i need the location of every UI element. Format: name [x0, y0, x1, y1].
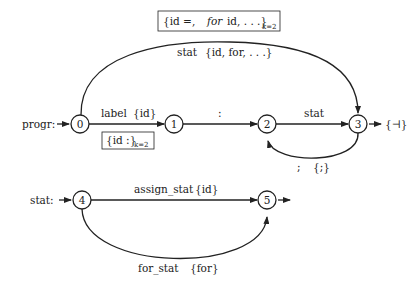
state-2: 2 — [258, 115, 276, 133]
state-4-label: 4 — [79, 194, 86, 206]
state-0: 0 — [71, 115, 89, 133]
edge-1-2-symbol: : — [218, 107, 222, 119]
edge-0-1-k2-sub: k=2 — [134, 141, 149, 149]
edge-4-5-assign-lookahead: {id} — [195, 183, 218, 196]
state-4: 4 — [73, 191, 91, 209]
edge-0-3-k2-sub: k=2 — [262, 23, 277, 31]
edge-0-1-lookahead: {id} — [133, 107, 156, 120]
edge-3-2-symbol: ; — [297, 161, 301, 173]
edge-4-5-for-lookahead: {for} — [190, 262, 219, 275]
state-5: 5 — [258, 191, 276, 209]
stat-machine-label: stat: — [30, 194, 54, 206]
state-3: 3 — [349, 115, 367, 133]
edge-0-1-k2-set: {id :} — [106, 134, 136, 147]
edge-0-1-symbol: label — [101, 107, 128, 119]
state-3-label: 3 — [355, 118, 362, 130]
state-1: 1 — [165, 115, 183, 133]
edge-3-2 — [268, 133, 358, 158]
progr-machine-label: progr: — [22, 118, 55, 130]
edge-4-5-assign-symbol: assign_stat — [134, 183, 194, 196]
edge-0-3-symbol: stat — [177, 46, 198, 58]
edge-3-2-lookahead: {;} — [313, 161, 330, 174]
state-3-exit-lookahead: {⊣} — [385, 118, 407, 131]
state-1-label: 1 — [171, 118, 178, 130]
edge-2-3-symbol: stat — [304, 107, 325, 119]
edge-0-3-k2-set-for: for — [206, 15, 223, 27]
edge-0-3-lookahead: {id, for, . . .} — [205, 46, 273, 59]
automaton-diagram: progr: label {id} {id :} k=2 : stat ; {;… — [0, 0, 420, 291]
state-2-label: 2 — [264, 118, 271, 130]
edge-4-5-for-symbol: for_stat — [138, 262, 179, 275]
state-5-label: 5 — [264, 194, 271, 206]
edge-4-5-for — [82, 209, 267, 258]
state-0-label: 0 — [77, 118, 84, 130]
edge-0-3-k2-set-a: {id =, — [163, 15, 195, 28]
